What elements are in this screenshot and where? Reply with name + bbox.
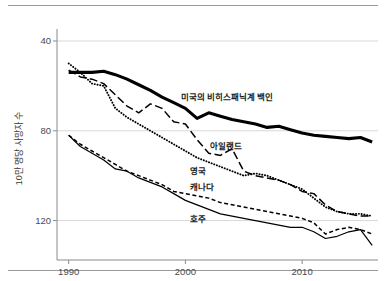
line-chart-plot: [0, 0, 386, 281]
series-label-us: 미국의 비히스패닉계 백인: [181, 90, 274, 102]
series-label-uk: 영국: [190, 164, 206, 176]
series-label-canada: 캐나다: [190, 180, 214, 192]
series-line-us: [69, 71, 372, 142]
gridlines-group: [57, 41, 378, 221]
figure-container: 10만 명당 사망자 수 120 80 40 1990 2000 2010 미국…: [0, 0, 386, 281]
series-line-australia: [69, 135, 372, 245]
series-label-ireland: 아일랜드: [210, 139, 242, 151]
series-label-australia: 호주: [190, 212, 206, 224]
